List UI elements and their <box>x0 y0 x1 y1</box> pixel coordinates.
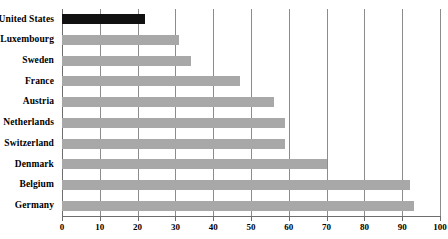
x-tick-90 <box>402 216 403 221</box>
x-tick-100 <box>440 216 441 221</box>
bar-chart: United States Luxembourg Sweden France A… <box>0 0 448 239</box>
category-label-row: Luxembourg <box>0 30 58 51</box>
x-tick-label-60: 60 <box>284 222 293 233</box>
category-label-row: Netherlands <box>0 113 58 134</box>
category-label-belgium: Belgium <box>20 180 54 190</box>
bar-row <box>62 154 440 175</box>
category-label-row: Austria <box>0 92 58 113</box>
x-axis-tick-labels: 0102030405060708090100 <box>62 222 440 236</box>
category-label-switzerland: Switzerland <box>4 139 54 149</box>
x-tick-label-20: 20 <box>133 222 142 233</box>
category-label-united-states: United States <box>0 15 54 25</box>
x-tick-70 <box>327 216 328 221</box>
gridline-100 <box>440 9 441 216</box>
category-label-row: Denmark <box>0 154 58 175</box>
x-tick-80 <box>364 216 365 221</box>
category-label-row: Germany <box>0 195 58 216</box>
x-tick-10 <box>100 216 101 221</box>
bars-layer <box>62 9 440 216</box>
x-tick-label-10: 10 <box>95 222 104 233</box>
bar-row <box>62 9 440 30</box>
x-tick-20 <box>138 216 139 221</box>
x-tick-label-80: 80 <box>360 222 369 233</box>
category-label-sweden: Sweden <box>22 56 54 66</box>
x-tick-0 <box>62 216 63 221</box>
category-label-row: France <box>0 71 58 92</box>
category-label-row: Switzerland <box>0 133 58 154</box>
category-label-row: Sweden <box>0 50 58 71</box>
x-tick-label-0: 0 <box>60 222 65 233</box>
bar-row <box>62 50 440 71</box>
x-tick-50 <box>251 216 252 221</box>
bar-france <box>62 76 240 86</box>
x-axis-ticks <box>62 216 440 221</box>
bar-united-states <box>62 14 145 24</box>
bar-row <box>62 113 440 134</box>
bar-row <box>62 71 440 92</box>
category-axis: United States Luxembourg Sweden France A… <box>0 9 58 216</box>
x-tick-label-30: 30 <box>171 222 180 233</box>
bar-sweden <box>62 56 191 66</box>
x-tick-label-100: 100 <box>433 222 447 233</box>
category-label-row: United States <box>0 9 58 30</box>
bar-row <box>62 195 440 216</box>
bar-row <box>62 30 440 51</box>
bar-row <box>62 133 440 154</box>
bar-austria <box>62 97 274 107</box>
bar-row <box>62 175 440 196</box>
category-label-luxembourg: Luxembourg <box>0 35 54 45</box>
category-label-netherlands: Netherlands <box>3 118 54 128</box>
x-tick-60 <box>289 216 290 221</box>
x-tick-label-40: 40 <box>209 222 218 233</box>
x-tick-label-90: 90 <box>398 222 407 233</box>
bar-germany <box>62 201 414 211</box>
x-tick-label-70: 70 <box>322 222 331 233</box>
x-tick-40 <box>213 216 214 221</box>
category-label-germany: Germany <box>15 201 54 211</box>
bar-belgium <box>62 180 410 190</box>
category-label-austria: Austria <box>23 97 54 107</box>
x-tick-30 <box>175 216 176 221</box>
bar-luxembourg <box>62 35 179 45</box>
bar-row <box>62 92 440 113</box>
bar-denmark <box>62 159 327 169</box>
x-tick-label-50: 50 <box>247 222 256 233</box>
category-label-row: Belgium <box>0 175 58 196</box>
plot-area <box>62 9 440 216</box>
bar-netherlands <box>62 118 285 128</box>
category-label-france: France <box>25 77 54 87</box>
bar-switzerland <box>62 139 285 149</box>
category-label-denmark: Denmark <box>15 160 54 170</box>
